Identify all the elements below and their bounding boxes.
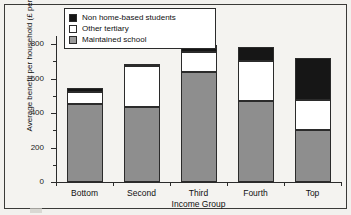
- x-tick-label: Bottom: [56, 188, 113, 198]
- y-tick-label: 200: [18, 143, 44, 152]
- bar-segment-school: [181, 72, 217, 182]
- bar-segment-tertiary: [295, 100, 331, 130]
- x-tick-label: Second: [113, 188, 170, 198]
- scan-artifact: [30, 208, 42, 213]
- bar-segment-school: [67, 104, 103, 182]
- legend-swatch-school-icon: [69, 36, 77, 44]
- x-tick-label: Fourth: [227, 188, 284, 198]
- bar-segment-nonhome: [124, 64, 160, 67]
- x-tick: [113, 182, 114, 186]
- y-tick-label: 400: [18, 108, 44, 117]
- bar-segment-school: [238, 101, 274, 182]
- bar-segment-nonhome: [295, 58, 331, 100]
- x-axis-line: [56, 182, 341, 183]
- y-tick-label: 0: [18, 177, 44, 186]
- bar-segment-nonhome: [67, 88, 103, 92]
- bar-segment-tertiary: [181, 52, 217, 72]
- legend-swatch-tertiary-icon: [69, 25, 77, 33]
- bar-bottom: [67, 38, 103, 182]
- chart-figure: Average benefit per household (£ per yea…: [0, 0, 351, 215]
- bar-segment-school: [124, 107, 160, 182]
- legend-item: Non home-based students: [69, 12, 211, 23]
- legend-label: Other tertiary: [82, 23, 129, 34]
- bar-third: [181, 38, 217, 182]
- x-tick: [170, 182, 171, 186]
- bar-segment-tertiary: [124, 66, 160, 107]
- bar-segment-tertiary: [67, 92, 103, 103]
- legend-item: Maintained school: [69, 34, 211, 45]
- x-tick: [56, 182, 57, 186]
- legend-label: Non home-based students: [82, 12, 176, 23]
- x-axis-label: Income Group: [56, 199, 341, 209]
- legend-item: Other tertiary: [69, 23, 211, 34]
- bar-fourth: [238, 38, 274, 182]
- x-tick-label: Third: [170, 188, 227, 198]
- y-tick-label: 600: [18, 74, 44, 83]
- x-tick-label: Top: [284, 188, 341, 198]
- bar-segment-nonhome: [238, 47, 274, 62]
- bar-segment-school: [295, 130, 331, 182]
- chart-legend: Non home-based students Other tertiary M…: [64, 8, 216, 49]
- x-tick: [284, 182, 285, 186]
- x-tick: [227, 182, 228, 186]
- legend-swatch-nonhome-icon: [69, 14, 77, 22]
- x-tick: [341, 182, 342, 186]
- y-tick-label: 800: [18, 39, 44, 48]
- bar-second: [124, 38, 160, 182]
- legend-label: Maintained school: [82, 34, 146, 45]
- bar-top: [295, 38, 331, 182]
- plot-area: [56, 38, 341, 182]
- bar-segment-tertiary: [238, 61, 274, 100]
